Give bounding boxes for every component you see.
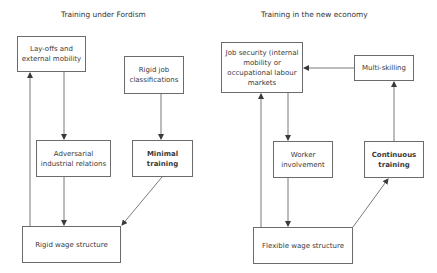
- node-job-security-label: Job security (internal mobility or occup…: [225, 48, 299, 88]
- node-rigid-job-label: Rigid job classifications: [127, 65, 181, 85]
- right-panel-title: Training in the new economy: [261, 10, 368, 19]
- node-minimal-training: Minimal training: [132, 140, 193, 177]
- node-worker-involvement-label: Worker involvement: [280, 150, 326, 170]
- node-adversarial-label: Adversarial industrial relations: [39, 149, 108, 169]
- node-layoffs-label: Lay-offs and external mobility: [20, 44, 83, 64]
- diagram-canvas: Training under Fordism Lay-offs and exte…: [0, 0, 437, 273]
- node-flexible-wage-label: Flexible wage structure: [262, 241, 344, 251]
- node-multi-skilling: Multi-skilling: [354, 55, 414, 81]
- node-worker-involvement: Worker involvement: [273, 141, 333, 178]
- node-multi-skilling-label: Multi-skilling: [362, 63, 406, 73]
- node-layoffs: Lay-offs and external mobility: [17, 36, 86, 72]
- node-rigid-wage-label: Rigid wage structure: [35, 240, 108, 250]
- node-continuous-training: Continuous training: [364, 141, 424, 178]
- node-adversarial-relations: Adversarial industrial relations: [36, 140, 111, 177]
- node-rigid-wage-structure: Rigid wage structure: [22, 226, 121, 263]
- node-flexible-wage-structure: Flexible wage structure: [253, 227, 353, 264]
- node-rigid-job-classifications: Rigid job classifications: [124, 56, 184, 94]
- node-job-security: Job security (internal mobility or occup…: [221, 42, 303, 93]
- left-panel-title: Training under Fordism: [61, 10, 146, 19]
- node-continuous-training-label: Continuous training: [369, 150, 419, 170]
- node-minimal-training-label: Minimal training: [143, 149, 182, 169]
